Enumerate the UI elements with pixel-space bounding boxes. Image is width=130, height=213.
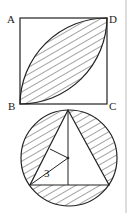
label-d: D [109, 13, 117, 25]
circle-figure: 3 [21, 110, 117, 206]
leaf-shaded-region [20, 18, 107, 104]
label-b: B [8, 100, 15, 112]
label-a: A [7, 13, 15, 25]
center-point [67, 157, 70, 160]
geometry-figure: A D B C 3 [0, 0, 130, 213]
square-figure: A D B C [7, 13, 117, 112]
apothem-line [50, 149, 68, 158]
label-c: C [109, 100, 116, 112]
radius-label: 3 [44, 167, 50, 179]
